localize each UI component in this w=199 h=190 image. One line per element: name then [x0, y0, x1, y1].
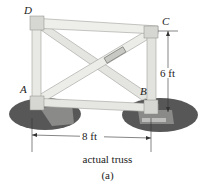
- gusset-A: [30, 96, 44, 110]
- gusset-D: [30, 16, 44, 30]
- joint-label-A: A: [20, 84, 27, 95]
- truss-figure: D C A B 6 ft 8 ft actual truss (a): [0, 0, 199, 190]
- base-plate-right: [142, 118, 166, 122]
- dimension-height-label: 6 ft: [160, 68, 175, 79]
- member-AD: [32, 22, 41, 108]
- joint-label-B: B: [140, 86, 147, 97]
- joint-label-C: C: [162, 16, 169, 27]
- joint-label-D: D: [24, 5, 32, 16]
- figure-sublabel: (a): [0, 170, 199, 181]
- dimension-width-label: 8 ft: [82, 131, 97, 142]
- gusset-C: [144, 26, 158, 38]
- member-BC: [147, 30, 156, 110]
- figure-caption: actual truss: [0, 154, 199, 165]
- gusset-B: [144, 100, 158, 114]
